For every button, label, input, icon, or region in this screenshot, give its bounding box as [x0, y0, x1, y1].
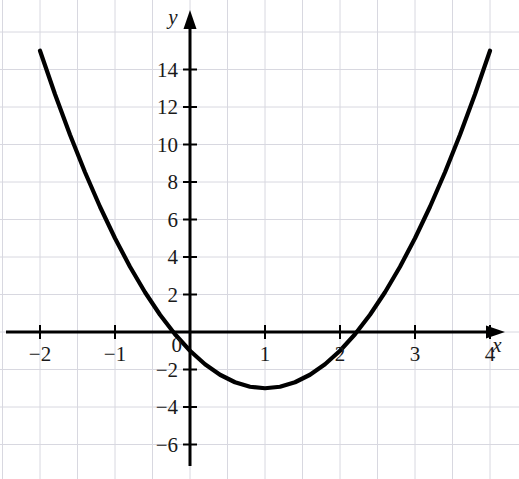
- y-tick-label: 2: [168, 283, 179, 307]
- chart-canvas: −2−11234−6−4−224681012140 x y: [0, 0, 519, 479]
- x-tick-label: −1: [104, 342, 126, 366]
- x-tick-label: 1: [260, 342, 271, 366]
- y-tick-label: 10: [157, 133, 178, 157]
- x-axis-label: x: [491, 333, 502, 357]
- origin-label: 0: [172, 333, 183, 357]
- y-tick-label: 12: [157, 95, 178, 119]
- y-tick-label: 6: [168, 208, 179, 232]
- y-tick-label: 14: [157, 58, 179, 82]
- y-axis-label: y: [166, 5, 178, 29]
- x-tick-label: −2: [29, 342, 51, 366]
- y-tick-label: −2: [156, 358, 178, 382]
- y-tick-label: 8: [168, 170, 179, 194]
- parabola-chart: −2−11234−6−4−224681012140 x y: [0, 0, 519, 479]
- x-tick-label: 2: [335, 342, 346, 366]
- y-tick-label: −6: [156, 433, 178, 457]
- y-tick-label: −4: [156, 395, 179, 419]
- x-tick-label: 3: [410, 342, 421, 366]
- y-tick-label: 4: [168, 245, 179, 269]
